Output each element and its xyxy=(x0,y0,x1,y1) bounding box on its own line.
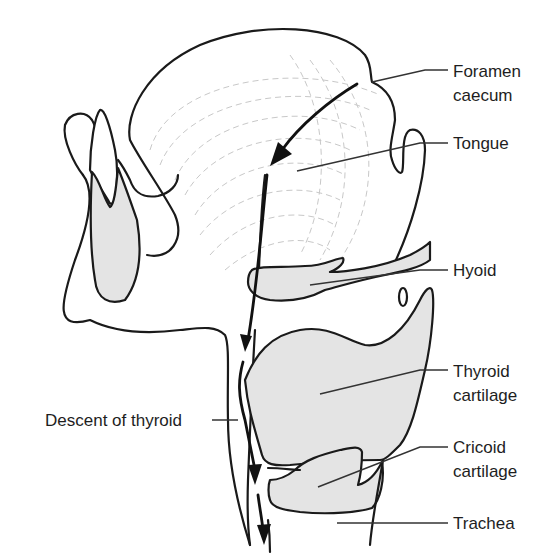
tongue-muscle-texture xyxy=(150,55,380,270)
label-trachea: Trachea xyxy=(453,514,515,533)
label-cricoid-cartilage-2: cartilage xyxy=(453,462,517,481)
label-descent-of-thyroid: Descent of thyroid xyxy=(45,411,182,430)
descent-path-middle xyxy=(248,175,267,340)
leader-foramen-caecum xyxy=(372,70,448,82)
mandible-bone xyxy=(91,168,140,302)
label-cricoid-cartilage-1: Cricoid xyxy=(453,438,506,457)
descent-arrowhead-upper xyxy=(270,142,292,166)
small-foramen-oval xyxy=(399,288,407,306)
label-foramen-caecum-2: caecum xyxy=(453,86,513,105)
label-tongue: Tongue xyxy=(453,134,509,153)
label-thyroid-cartilage-2: cartilage xyxy=(453,386,517,405)
thyroid-cartilage xyxy=(245,288,433,465)
descent-arrowhead-middle xyxy=(240,334,252,352)
descent-arrowhead-lower xyxy=(248,464,262,485)
label-thyroid-cartilage-1: Thyroid xyxy=(453,362,510,381)
label-hyoid: Hyoid xyxy=(453,261,496,280)
label-foramen-caecum-1: Foramen xyxy=(453,62,521,81)
thyroid-descent-diagram: Foramen caecum Tongue Hyoid Thyroid cart… xyxy=(0,0,554,560)
